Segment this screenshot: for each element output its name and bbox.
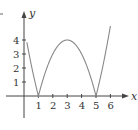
chart: y x 1 2 3 4 5 6 1 2 3 4: [0, 0, 138, 130]
y-axis-arrow-icon: [22, 11, 27, 18]
x-axis-arrow-icon: [122, 94, 129, 99]
x-tick-label: 3: [64, 100, 70, 111]
y-tick-label: 3: [13, 49, 19, 60]
x-tick-label: 1: [36, 100, 42, 111]
y-tick-label: 2: [13, 63, 19, 74]
curve: [27, 26, 111, 96]
y-tick-label: 1: [13, 77, 19, 88]
x-tick-label: 6: [108, 100, 114, 111]
x-axis-label: x: [131, 90, 138, 103]
x-tick-label: 4: [79, 100, 85, 111]
y-axis-label: y: [28, 7, 36, 20]
x-tick-label: 5: [93, 100, 99, 111]
x-tick-label: 2: [50, 100, 56, 111]
y-tick-label: 4: [13, 35, 19, 46]
